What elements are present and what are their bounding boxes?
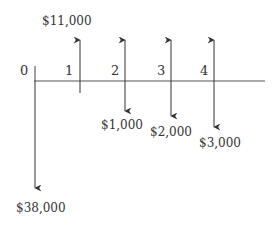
period-label-2: 2 [111, 63, 119, 78]
inflow-amount-1: $11,000 [42, 14, 92, 28]
outflow-amount-3: $2,000 [150, 125, 192, 139]
cash-flow-diagram: 0 1 2 3 4 $11,000 $38,000 $1,000 $2,000 … [0, 0, 277, 226]
outflow-amount-0: $38,000 [16, 201, 66, 215]
period-label-0: 0 [20, 63, 28, 78]
outflow-amount-4: $3,000 [199, 136, 241, 150]
outflow-amount-2: $1,000 [101, 118, 143, 132]
period-label-4: 4 [200, 63, 208, 78]
period-label-1: 1 [65, 63, 73, 78]
period-label-3: 3 [157, 63, 165, 78]
